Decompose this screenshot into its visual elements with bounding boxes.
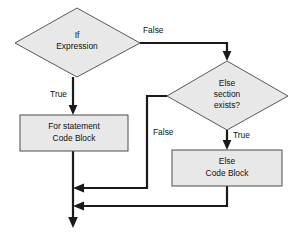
node-for-statement-code-block[interactable]: For statement Code Block	[20, 115, 128, 151]
if-expression-label-line1: If	[75, 30, 80, 40]
edge-else-block-out	[73, 186, 227, 211]
node-else-section-exists[interactable]: Else section exists?	[167, 61, 288, 130]
if-expression-label-line2: Expression	[56, 41, 98, 51]
edge-else-exists-true-arrowhead	[223, 140, 232, 150]
edge-if-false-line	[140, 43, 227, 53]
for-statement-code-block-label-line2: Code Block	[53, 133, 97, 143]
edge-label-else-exists-false: False	[153, 127, 174, 137]
edge-label-if-false: False	[143, 25, 164, 35]
node-else-code-block[interactable]: Else Code Block	[172, 150, 282, 186]
else-code-block-label-line1: Else	[219, 156, 236, 166]
flowchart-svg: If Expression Else section exists? For s…	[0, 0, 302, 237]
edge-else-exists-true	[223, 130, 232, 150]
edge-if-true-arrowhead	[69, 105, 78, 115]
edge-else-exists-false-arrowhead	[73, 183, 84, 192]
edge-label-else-exists-true: True	[233, 130, 250, 140]
edge-label-if-true: True	[50, 89, 67, 99]
node-if-expression[interactable]: If Expression	[15, 8, 140, 77]
else-section-exists-label-line1: Else	[219, 78, 236, 88]
flowchart-canvas: If Expression Else section exists? For s…	[0, 0, 302, 237]
else-section-exists-label-line2: section	[214, 89, 241, 99]
edge-if-false-arrowhead	[223, 51, 232, 61]
else-code-block-label-line2: Code Block	[206, 168, 250, 178]
edge-else-block-out-arrowhead	[73, 201, 84, 210]
else-section-exists-label-line3: exists?	[214, 100, 240, 110]
edge-for-block-out	[68, 151, 78, 228]
edge-if-true	[69, 77, 78, 115]
edge-if-false	[140, 43, 231, 61]
for-statement-code-block-label-line1: For statement	[48, 121, 100, 131]
edge-exit-arrowhead	[68, 217, 78, 228]
